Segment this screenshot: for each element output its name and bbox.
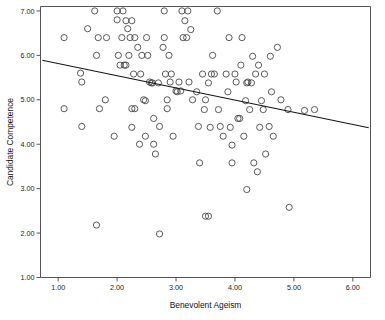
x-axis-tick-label: 3.00 <box>169 283 183 292</box>
data-point <box>142 133 148 139</box>
y-axis-tick-label: 5.00 <box>21 95 35 104</box>
data-point <box>209 52 215 58</box>
data-point <box>103 35 109 41</box>
data-point <box>114 8 120 14</box>
x-axis-tick-label: 6.00 <box>346 283 360 292</box>
plot-canvas: 1.002.003.004.005.006.007.001.002.003.00… <box>0 0 385 320</box>
data-point <box>93 222 99 228</box>
data-point <box>267 53 273 59</box>
data-point <box>162 71 168 77</box>
data-point <box>226 35 232 41</box>
data-point <box>261 71 267 77</box>
data-point <box>85 26 91 32</box>
data-point-group <box>61 8 318 237</box>
data-point <box>301 107 307 113</box>
data-point <box>151 115 157 121</box>
data-point <box>266 123 272 129</box>
data-point <box>79 123 85 129</box>
scatter-plot-figure: 1.002.003.004.005.006.007.001.002.003.00… <box>0 0 385 320</box>
data-point <box>263 151 269 157</box>
x-axis-tick-label: 5.00 <box>287 283 301 292</box>
data-point <box>184 35 190 41</box>
data-point <box>247 106 253 112</box>
y-axis-tick-label: 2.00 <box>21 229 35 238</box>
data-point <box>61 35 67 41</box>
data-point <box>145 52 151 58</box>
data-point <box>268 89 274 95</box>
data-point <box>180 35 186 41</box>
data-point <box>232 71 238 77</box>
data-point <box>119 35 125 41</box>
data-point <box>111 133 117 139</box>
data-point <box>238 62 244 68</box>
data-point <box>270 133 276 139</box>
data-point <box>151 141 157 147</box>
data-point <box>114 17 120 23</box>
data-point <box>205 80 211 86</box>
data-point <box>255 62 261 68</box>
data-point <box>260 106 266 112</box>
data-point <box>185 8 191 14</box>
data-point <box>167 79 173 85</box>
y-axis-title: Candidate Competence <box>5 98 15 186</box>
data-point <box>225 89 231 95</box>
data-point <box>77 70 83 76</box>
data-point <box>227 124 233 130</box>
data-point <box>95 35 101 41</box>
data-point <box>176 79 182 85</box>
data-point <box>233 79 239 85</box>
data-point <box>164 106 170 112</box>
data-point <box>123 18 129 24</box>
y-axis-tick-label: 7.00 <box>21 7 35 16</box>
data-point <box>79 79 85 85</box>
data-point <box>241 133 247 139</box>
data-point <box>168 71 174 77</box>
data-point <box>120 8 126 14</box>
data-point <box>166 52 172 58</box>
data-point <box>258 98 264 104</box>
data-point <box>199 71 205 77</box>
data-point <box>143 35 149 41</box>
data-point <box>286 204 292 210</box>
data-point <box>229 142 235 148</box>
data-point <box>125 26 131 32</box>
x-axis-title: Benevolent Ageism <box>170 300 242 310</box>
data-point <box>189 97 195 103</box>
y-axis-tick-label: 4.00 <box>21 140 35 149</box>
x-axis-tick-label: 1.00 <box>51 283 65 292</box>
data-point <box>239 35 245 41</box>
data-point <box>161 35 167 41</box>
regression-fit-line <box>42 60 368 128</box>
data-point <box>170 133 176 139</box>
data-point <box>164 97 170 103</box>
data-point <box>115 52 121 58</box>
data-point <box>278 97 284 103</box>
data-point <box>223 71 229 77</box>
data-point <box>160 44 166 50</box>
x-axis-tick-label: 4.00 <box>228 283 242 292</box>
data-point <box>129 18 135 24</box>
data-point <box>248 80 254 86</box>
data-point <box>61 106 67 112</box>
data-point <box>202 97 208 103</box>
data-point <box>251 160 257 166</box>
data-point <box>195 123 201 129</box>
data-point <box>129 124 135 130</box>
x-axis-tick-label: 2.00 <box>110 283 124 292</box>
data-point <box>152 151 158 157</box>
data-point <box>102 97 108 103</box>
data-point <box>135 44 141 50</box>
data-point <box>214 8 220 14</box>
data-point <box>274 44 280 50</box>
data-point <box>126 52 132 58</box>
data-point <box>139 52 145 58</box>
data-point <box>229 160 235 166</box>
plot-frame <box>41 7 371 278</box>
data-point <box>156 231 162 237</box>
data-point <box>138 71 144 77</box>
data-point <box>257 124 263 130</box>
data-point <box>188 27 194 33</box>
data-point <box>161 8 167 14</box>
data-point <box>311 106 317 112</box>
data-point <box>182 18 188 24</box>
